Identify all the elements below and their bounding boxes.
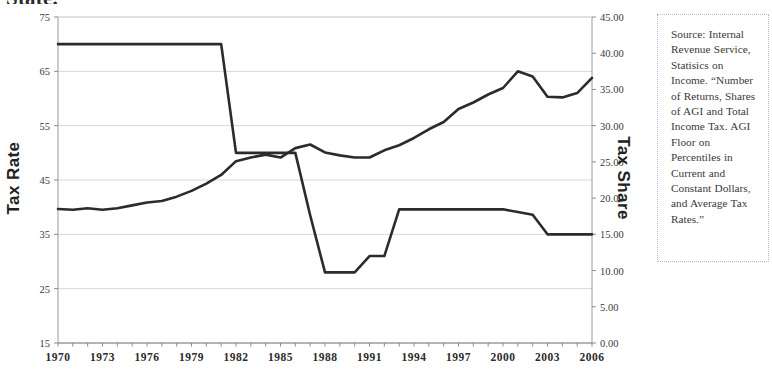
- tick-label-left: 35: [40, 229, 51, 240]
- tick-label-x: 1973: [90, 351, 115, 363]
- line-chart: 7565554535251545.0040.0035.0030.0025.002…: [0, 0, 640, 370]
- y-axis-left-title: Tax Rate: [4, 133, 24, 223]
- tick-label-right: 0.00: [600, 338, 618, 349]
- chart-region: 7565554535251545.0040.0035.0030.0025.002…: [0, 0, 640, 370]
- tick-label-x: 1988: [313, 351, 338, 363]
- tick-label-x: 1970: [46, 351, 71, 363]
- source-note-text: Source: Internal Revenue Service, Statis…: [671, 27, 759, 227]
- tick-label-x: 2003: [535, 351, 560, 363]
- tick-label-right: 10.00: [600, 266, 624, 277]
- tick-label-right: 35.00: [600, 84, 624, 95]
- tick-label-right: 15.00: [600, 229, 624, 240]
- tick-label-right: 30.00: [600, 121, 624, 132]
- tick-label-right: 40.00: [600, 48, 624, 59]
- tick-label-left: 45: [40, 175, 51, 186]
- tick-label-x: 1976: [135, 351, 160, 363]
- tick-label-x: 1994: [402, 351, 427, 363]
- tick-label-left: 25: [40, 284, 51, 295]
- tick-label-x: 1985: [268, 351, 293, 363]
- tick-label-right: 45.00: [600, 12, 624, 23]
- y-axis-right-title: Tax Share: [613, 133, 633, 223]
- tick-label-right: 5.00: [600, 302, 618, 313]
- source-note-box: Source: Internal Revenue Service, Statis…: [657, 14, 769, 262]
- tick-label-x: 2000: [491, 351, 516, 363]
- tick-label-left: 55: [40, 121, 51, 132]
- tick-label-left: 15: [40, 338, 51, 349]
- tick-label-left: 75: [40, 12, 51, 23]
- tick-label-x: 1982: [224, 351, 249, 363]
- tick-label-x: 1997: [446, 351, 471, 363]
- tick-label-x: 2006: [580, 351, 605, 363]
- tick-label-x: 1979: [179, 351, 204, 363]
- tick-label-x: 1991: [357, 351, 382, 363]
- data-line-tax-share: [58, 71, 592, 209]
- tick-label-left: 65: [40, 66, 51, 77]
